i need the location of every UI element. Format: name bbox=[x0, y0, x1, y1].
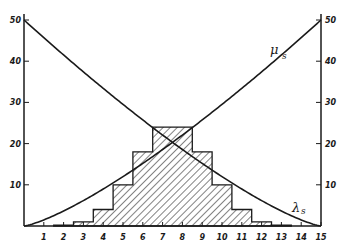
mu-s-subscript: s bbox=[282, 51, 287, 61]
y-tick-label-left: 10 bbox=[10, 181, 22, 190]
x-tick-label: 2 bbox=[61, 233, 67, 242]
x-tick-label: 3 bbox=[81, 233, 87, 242]
x-tick-label: 11 bbox=[236, 233, 247, 242]
x-tick-label: 12 bbox=[256, 233, 268, 242]
y-tick-label-right: 10 bbox=[325, 181, 337, 190]
x-tick-label: 7 bbox=[160, 233, 166, 242]
x-tick-label: 5 bbox=[120, 233, 126, 242]
x-tick-label: 9 bbox=[199, 233, 205, 242]
chart: 1234567891011121314151020304050102030405… bbox=[0, 0, 344, 248]
x-tick-label: 15 bbox=[315, 233, 327, 242]
y-tick-label-right: 50 bbox=[325, 16, 337, 25]
x-tick-label: 8 bbox=[180, 233, 186, 242]
labels: μsλs bbox=[270, 42, 306, 216]
mu-s-label: μ bbox=[270, 42, 278, 57]
x-tick-label: 1 bbox=[41, 233, 47, 242]
x-tick-label: 6 bbox=[140, 233, 146, 242]
x-tick-label: 10 bbox=[216, 233, 228, 242]
y-tick-label-left: 40 bbox=[9, 57, 22, 66]
lambda-s-label: λ bbox=[291, 200, 300, 215]
y-tick-label-left: 20 bbox=[10, 140, 22, 149]
x-tick-label: 14 bbox=[296, 233, 308, 242]
lambda-s-subscript: s bbox=[301, 206, 306, 216]
y-tick-label-right: 30 bbox=[325, 98, 337, 107]
y-tick-label-left: 30 bbox=[10, 98, 22, 107]
y-tick-label-right: 20 bbox=[325, 140, 337, 149]
y-tick-label-left: 50 bbox=[10, 16, 22, 25]
x-tick-label: 13 bbox=[276, 233, 288, 242]
x-tick-label: 4 bbox=[99, 233, 106, 242]
y-tick-label-right: 40 bbox=[324, 57, 337, 66]
